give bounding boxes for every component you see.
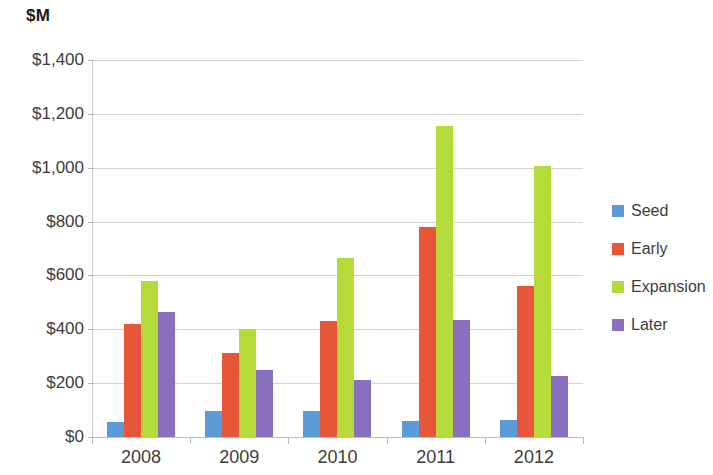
y-axis-tick-label: $400: [2, 319, 84, 339]
bar-early-2011: [419, 227, 436, 437]
y-axis-tick-label: $1,400: [2, 50, 84, 70]
legend-item-expansion[interactable]: Expansion: [612, 268, 713, 306]
x-axis-tick-mark: [583, 437, 584, 444]
y-axis-tick-mark: [88, 168, 93, 169]
legend-label: Seed: [631, 202, 668, 220]
y-axis-tick-label: $1,200: [2, 104, 84, 124]
y-axis-tick-labels: $1,400$1,200$1,000$800$600$400$200$0: [0, 0, 84, 475]
x-axis-tick-mark: [190, 437, 191, 444]
bar-seed-2009: [205, 411, 222, 437]
y-axis-tick-mark: [88, 222, 93, 223]
x-axis-tick-mark: [288, 437, 289, 444]
bar-later-2010: [354, 380, 371, 437]
bar-expansion-2009: [239, 329, 256, 437]
bar-group-2011: [387, 60, 485, 437]
y-axis-tick-label: $1,000: [2, 158, 84, 178]
x-axis-tick-label-2012: 2012: [514, 447, 554, 468]
bar-group-2010: [288, 60, 386, 437]
bar-later-2009: [256, 370, 273, 437]
bar-expansion-2011: [436, 126, 453, 437]
chart-legend: SeedEarlyExpansionLater: [612, 192, 713, 344]
y-axis-tick-label: $0: [2, 427, 84, 447]
y-axis-tick-mark: [88, 329, 93, 330]
bar-later-2011: [453, 320, 470, 437]
x-axis-tick-label-2010: 2010: [317, 447, 357, 468]
x-axis-tick-mark: [485, 437, 486, 444]
legend-label: Early: [631, 240, 667, 258]
bar-expansion-2010: [337, 258, 354, 437]
y-axis-tick-mark: [88, 114, 93, 115]
legend-swatch-seed-icon: [612, 205, 624, 217]
bar-early-2010: [320, 321, 337, 437]
bar-group-2008: [92, 60, 190, 437]
y-axis-tick-mark: [88, 275, 93, 276]
bar-early-2008: [124, 324, 141, 437]
bar-early-2012: [517, 286, 534, 437]
legend-item-early[interactable]: Early: [612, 230, 713, 268]
bar-later-2008: [158, 312, 175, 437]
x-axis-tick-mark: [92, 437, 93, 444]
y-axis-tick-mark: [88, 383, 93, 384]
legend-label: Later: [631, 316, 667, 334]
y-axis-tick-mark: [88, 437, 93, 438]
legend-swatch-expansion-icon: [612, 281, 624, 293]
bar-seed-2011: [402, 421, 419, 437]
y-axis-tick-label: $200: [2, 373, 84, 393]
x-axis-tick-label-2011: 2011: [416, 447, 455, 468]
bar-group-2012: [485, 60, 583, 437]
x-axis-tick-label-2008: 2008: [121, 447, 161, 468]
bar-group-2009: [190, 60, 288, 437]
legend-swatch-later-icon: [612, 319, 624, 331]
x-axis-line: [92, 437, 583, 438]
y-axis-tick-mark: [88, 60, 93, 61]
bar-later-2012: [551, 376, 568, 437]
x-axis-tick-mark: [387, 437, 388, 444]
y-axis-tick-label: $800: [2, 212, 84, 232]
bar-chart: $M $1,400$1,200$1,000$800$600$400$200$0 …: [0, 0, 713, 475]
y-axis-tick-label: $600: [2, 265, 84, 285]
bar-expansion-2008: [141, 281, 158, 437]
bar-seed-2012: [500, 420, 517, 438]
legend-item-later[interactable]: Later: [612, 306, 713, 344]
bar-early-2009: [222, 353, 239, 437]
legend-item-seed[interactable]: Seed: [612, 192, 713, 230]
x-axis-tick-label-2009: 2009: [219, 447, 259, 468]
legend-label: Expansion: [631, 278, 706, 296]
legend-swatch-early-icon: [612, 243, 624, 255]
bar-seed-2008: [107, 422, 124, 437]
bar-expansion-2012: [534, 166, 551, 437]
bar-seed-2010: [303, 411, 320, 437]
plot-area: [92, 60, 583, 437]
